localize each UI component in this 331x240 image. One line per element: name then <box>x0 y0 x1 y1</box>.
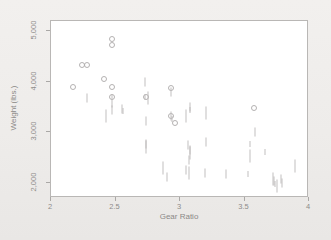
y-axis-tick-label: 4,000 <box>29 71 38 90</box>
data-point-tick <box>205 137 206 146</box>
data-point-tick <box>145 77 146 86</box>
data-point-circle <box>251 105 257 111</box>
data-point-tick <box>204 169 205 178</box>
data-point-tick <box>172 116 173 122</box>
x-axis-tick-label: 3.5 <box>238 202 248 211</box>
y-axis-tick <box>46 30 50 31</box>
data-point-tick <box>186 110 187 123</box>
plot-frame <box>50 20 308 197</box>
y-axis-tick-label: 2,000 <box>29 172 38 191</box>
data-point-tick <box>187 141 188 150</box>
data-point-tick <box>167 172 168 181</box>
x-axis-tick <box>308 197 309 201</box>
x-axis-tick-label: 4 <box>306 202 310 211</box>
x-axis-tick <box>179 197 180 201</box>
scatter-plot-figure: 22.533.542,0003,0004,0005,000 Gear Ratio… <box>0 0 331 240</box>
data-point-tick <box>254 128 255 137</box>
data-point-circle <box>101 76 107 82</box>
data-point-circle <box>84 62 90 68</box>
x-axis-tick <box>244 197 245 201</box>
data-point-tick <box>249 141 250 147</box>
y-axis-tick-label: 3,000 <box>29 122 38 141</box>
y-axis-tick <box>46 81 50 82</box>
x-axis-tick <box>50 197 51 201</box>
x-axis-tick <box>115 197 116 201</box>
data-point-tick <box>186 166 187 175</box>
x-axis-tick-label: 2.5 <box>109 202 119 211</box>
data-point-tick <box>146 116 147 125</box>
data-point-tick <box>265 149 266 155</box>
data-point-tick <box>163 162 164 175</box>
data-point-tick <box>189 167 190 180</box>
x-axis-tick-label: 3 <box>177 202 181 211</box>
data-point-tick <box>87 93 88 102</box>
data-point-tick <box>190 107 191 113</box>
data-point-circle <box>70 84 76 90</box>
data-point-tick <box>226 169 227 178</box>
y-axis-tick-label: 5,000 <box>29 21 38 40</box>
data-point-circle <box>109 42 115 48</box>
data-point-tick <box>190 146 191 159</box>
y-axis-label: Weight (lbs.) <box>9 86 18 131</box>
data-point-tick <box>248 171 249 177</box>
screenshot-root: 22.533.542,0003,0004,0005,000 Gear Ratio… <box>0 0 331 240</box>
y-axis-tick <box>46 131 50 132</box>
x-axis-tick-label: 2 <box>48 202 52 211</box>
plot-data-area <box>51 21 307 196</box>
data-point-tick <box>145 94 146 100</box>
data-point-tick <box>147 91 148 104</box>
data-point-tick <box>205 106 206 119</box>
data-point-circle <box>109 84 115 90</box>
data-point-tick <box>189 155 190 164</box>
data-point-tick <box>249 150 250 163</box>
y-axis-tick <box>46 182 50 183</box>
data-point-tick <box>123 108 124 114</box>
x-axis-label: Gear Ratio <box>160 212 199 221</box>
data-point-tick <box>146 141 147 154</box>
data-point-tick <box>111 106 112 115</box>
data-point-tick <box>106 110 107 123</box>
data-point-tick <box>170 87 171 96</box>
data-point-tick <box>276 180 277 193</box>
data-point-tick <box>294 160 295 173</box>
data-point-tick <box>281 179 282 188</box>
